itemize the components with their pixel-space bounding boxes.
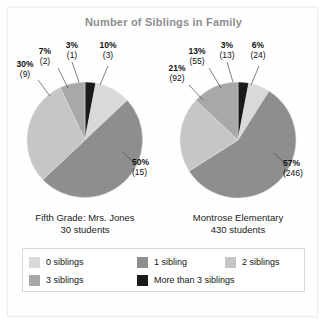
legend-label-1-sibling: 1 sibling bbox=[154, 257, 187, 267]
pie-caption-left-line2: 30 students bbox=[10, 224, 160, 236]
legend-swatch-more-than-3-siblings bbox=[137, 275, 148, 286]
legend-item-0-siblings: 0 siblings bbox=[29, 257, 137, 268]
label-1-sibling-left: 50% (15) bbox=[132, 157, 164, 177]
legend-item-1-sibling: 1 sibling bbox=[137, 257, 225, 268]
chart-panel: Number of Siblings in Family bbox=[7, 7, 318, 317]
label-more-than-3-left: 3% (1) bbox=[58, 40, 86, 60]
legend-label-3-siblings: 3 siblings bbox=[46, 275, 84, 285]
legend-swatch-0-siblings bbox=[29, 257, 40, 268]
legend-swatch-2-siblings bbox=[225, 257, 236, 268]
legend-swatch-1-sibling bbox=[137, 257, 148, 268]
label-2-siblings-left: 30% (9) bbox=[10, 59, 40, 79]
label-0-siblings-right: 6% (24) bbox=[243, 40, 273, 60]
label-0-siblings-left: 10% (3) bbox=[93, 40, 123, 60]
legend-item-3-siblings: 3 siblings bbox=[29, 275, 137, 286]
label-1-sibling-right: 57% (246) bbox=[283, 158, 317, 178]
chart-legend: 0 siblings 1 sibling 2 siblings 3 siblin… bbox=[22, 248, 305, 292]
legend-row-2: 3 siblings More than 3 siblings bbox=[29, 272, 298, 288]
image-frame: Number of Siblings in Family bbox=[0, 0, 325, 324]
pie-caption-right-line2: 430 students bbox=[163, 224, 313, 236]
pie-chart-montrose-elementary: 3% (13) 13% (55) 21% (92) 6% (24) 57% (2… bbox=[163, 30, 313, 240]
pie-chart-fifth-grade: 3% (1) 7% (2) 30% (9) 10% (3) 50% (15) F… bbox=[10, 30, 160, 240]
legend-item-more-than-3-siblings: More than 3 siblings bbox=[137, 275, 235, 286]
legend-label-more-than-3-siblings: More than 3 siblings bbox=[154, 275, 235, 285]
legend-item-2-siblings: 2 siblings bbox=[225, 257, 280, 268]
legend-row-1: 0 siblings 1 sibling 2 siblings bbox=[29, 254, 298, 270]
label-more-than-3-right: 3% (13) bbox=[213, 40, 241, 60]
pie-slices-right bbox=[180, 82, 296, 198]
legend-swatch-3-siblings bbox=[29, 275, 40, 286]
legend-label-0-siblings: 0 siblings bbox=[46, 257, 84, 267]
pie-caption-right-line1: Montrose Elementary bbox=[163, 212, 313, 224]
pie-caption-left: Fifth Grade: Mrs. Jones 30 students bbox=[10, 212, 160, 236]
pie-caption-right: Montrose Elementary 430 students bbox=[163, 212, 313, 236]
legend-label-2-siblings: 2 siblings bbox=[242, 257, 280, 267]
pie-slices-left bbox=[27, 82, 143, 198]
pie-caption-left-line1: Fifth Grade: Mrs. Jones bbox=[10, 212, 160, 224]
label-2-siblings-right: 21% (92) bbox=[163, 63, 191, 83]
chart-title: Number of Siblings in Family bbox=[8, 16, 319, 28]
